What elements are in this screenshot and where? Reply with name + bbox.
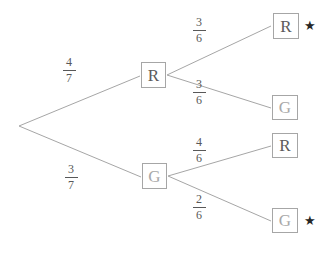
node-label: G xyxy=(279,99,291,116)
node-level2-green-red[interactable]: R xyxy=(272,133,298,158)
node-level2-red-green[interactable]: G xyxy=(272,95,298,120)
probability-label-3-6-top: 3 6 xyxy=(188,16,210,44)
star-marker-icon: ★ xyxy=(304,214,316,227)
node-label: R xyxy=(279,137,290,154)
fraction-numerator: 3 xyxy=(60,163,82,177)
fraction-numerator: 3 xyxy=(188,78,210,92)
node-label: R xyxy=(148,67,159,84)
fraction-denominator: 6 xyxy=(188,208,210,222)
edge-g-to-gg xyxy=(168,176,271,221)
fraction-denominator: 7 xyxy=(60,178,82,192)
node-level2-red-red[interactable]: R xyxy=(273,13,299,39)
fraction-numerator: 2 xyxy=(188,193,210,207)
edge-r-to-rr xyxy=(167,26,271,75)
fraction-numerator: 3 xyxy=(188,16,210,30)
fraction-denominator: 6 xyxy=(188,93,210,107)
fraction-denominator: 6 xyxy=(188,151,210,165)
probability-label-3-7: 3 7 xyxy=(60,163,82,191)
node-label: G xyxy=(279,212,291,229)
node-level1-red[interactable]: R xyxy=(141,62,166,88)
node-level2-green-green[interactable]: G xyxy=(272,208,298,233)
fraction-denominator: 6 xyxy=(188,31,210,45)
star-marker-icon: ★ xyxy=(304,19,316,32)
fraction-numerator: 4 xyxy=(188,136,210,150)
fraction-denominator: 7 xyxy=(58,71,80,85)
probability-tree-diagram: R G R G R G ★ ★ 4 7 3 7 3 6 3 6 4 6 xyxy=(0,0,336,253)
node-label: R xyxy=(280,18,291,35)
edge-r-to-rg xyxy=(167,75,271,108)
probability-label-4-6: 4 6 xyxy=(188,136,210,164)
node-label: G xyxy=(148,168,160,185)
probability-label-4-7: 4 7 xyxy=(58,56,80,84)
probability-label-2-6: 2 6 xyxy=(188,193,210,221)
edge-g-to-gr xyxy=(168,146,271,176)
node-level1-green[interactable]: G xyxy=(142,163,167,189)
fraction-numerator: 4 xyxy=(58,56,80,70)
probability-label-3-6-bottom: 3 6 xyxy=(188,78,210,106)
